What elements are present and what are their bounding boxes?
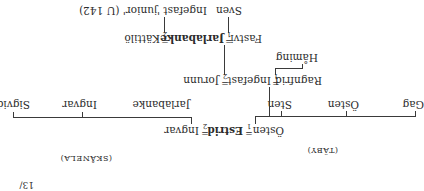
line-to-jarlabanke [224, 45, 225, 75]
person-fastvi: Fastvi [230, 33, 262, 45]
line-taby-siblings [255, 116, 416, 117]
line-to-ingefast-junior [164, 17, 165, 33]
line-to-ingefast [269, 87, 270, 117]
marriage-ingefast-1: =1 [272, 72, 280, 87]
line-skanela-siblings [13, 117, 192, 118]
marriage-jarlabanke-2: =2 [161, 30, 169, 45]
person-jarlabanke: Jarlabanke [160, 33, 224, 45]
line-skanela-drop [191, 118, 192, 124]
person-osten-younger: Östen [328, 99, 359, 111]
line-to-sven [228, 17, 229, 33]
line-gag [415, 111, 416, 117]
person-ingefast: Ingefast [227, 75, 271, 87]
person-haming: Håming [276, 52, 318, 64]
person-kattilo: Kättilö [124, 33, 160, 45]
region-label-skanela: (SKÅNELA) [60, 152, 112, 164]
person-sigvid: Sigvid [0, 99, 30, 111]
page-number-fragment: 13/ [20, 179, 34, 191]
marriage-ingefast-2: =2 [221, 72, 229, 87]
line-haming [275, 68, 303, 69]
person-ragnfrid: Ragnfrid [275, 75, 322, 87]
person-jorunn: Jorunn [183, 75, 219, 87]
line-haming-drop [302, 64, 303, 69]
line-ragnfrid-drop [275, 69, 276, 75]
region-label-taby: (TÄBY) [307, 144, 338, 156]
person-gag: Gag [403, 99, 424, 111]
line-osten-child [346, 111, 347, 117]
person-estrid: Estrid [207, 125, 243, 137]
marriage-2-marker: =2 [201, 122, 209, 137]
line-sten [281, 111, 282, 117]
line-sigvid [13, 112, 14, 118]
person-sten: Sten [268, 99, 292, 111]
person-ingvar-younger: Ingvar [62, 99, 97, 111]
person-ingefast-junior: Ingefast 'junior' (U 142) [79, 5, 207, 17]
marriage-jarlabanke-1: =1 [225, 30, 233, 45]
line-ingvar-child [82, 112, 83, 118]
person-ingvar-elder: Ingvar [164, 125, 199, 137]
person-jarlabanke-elder: Jarlabanke [133, 99, 190, 111]
marriage-1-marker: =1 [245, 122, 253, 137]
person-sven: Sven [216, 5, 242, 17]
person-osten-elder: Östen [253, 125, 284, 137]
line-taby-drop [255, 117, 256, 124]
